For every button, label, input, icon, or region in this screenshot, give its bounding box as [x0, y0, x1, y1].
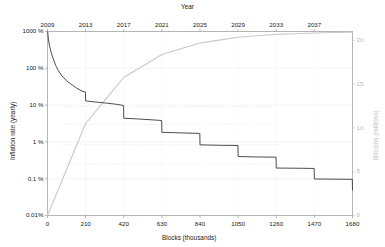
x-tick-label: 420 [119, 221, 129, 227]
x-tick-label: 210 [80, 221, 90, 227]
top-tick-label: 2009 [41, 22, 55, 28]
x-tick-label: 1260 [269, 221, 283, 227]
y-left-tick-label: 1000 % [23, 28, 44, 34]
chart-canvas [0, 0, 385, 247]
top-tick-label: 2017 [117, 22, 131, 28]
x-tick-label: 0 [46, 221, 49, 227]
x-tick-label: 840 [195, 221, 205, 227]
gridlines-layer [48, 32, 353, 216]
x-tick-label: 1470 [307, 221, 321, 227]
top-tick-label: 2033 [269, 22, 283, 28]
y-right-tick-label: 0 [357, 212, 360, 218]
y-right-tick-label: 15 [357, 81, 364, 87]
y-right-tick-label: 5 [357, 168, 360, 174]
y-left-tick-label: 0.01% [26, 212, 44, 218]
bitcoin-inflation-supply-chart: — ——— —— ——— — ———— —— —— —— ———— — ——— … [0, 0, 385, 247]
top-tick-label: 2025 [193, 22, 207, 28]
x-tick-label: 1680 [346, 221, 360, 227]
y-left-tick-label: 10 % [29, 102, 43, 108]
x-tick-label: 630 [157, 221, 167, 227]
x-tick-label: 1050 [231, 221, 245, 227]
top-tick-label: 2037 [307, 22, 321, 28]
top-tick-label: 2029 [231, 22, 245, 28]
top-tick-label: 2021 [155, 22, 169, 28]
y-right-tick-label: 10 [357, 125, 364, 131]
y-right-tick-label: 20 [357, 37, 364, 43]
y-left-tick-label: 1 % [33, 139, 44, 145]
y-left-tick-label: 100 % [26, 65, 44, 71]
top-tick-label: 2013 [79, 22, 93, 28]
y-left-tick-label: 0.1 % [28, 176, 44, 182]
